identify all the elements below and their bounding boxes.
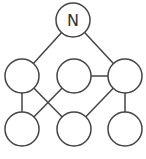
node-bm (57, 112, 91, 146)
node-bl (5, 112, 39, 146)
nodes-layer: N (5, 3, 142, 146)
node-label: N (67, 11, 79, 30)
node-l (5, 59, 39, 93)
node-r (108, 59, 142, 93)
node-circle (5, 59, 39, 93)
node-circle (57, 59, 91, 93)
node-circle (108, 112, 142, 146)
node-circle (5, 112, 39, 146)
node-circle (108, 59, 142, 93)
node-br (108, 112, 142, 146)
graph-diagram: N (0, 0, 146, 159)
node-n: N (56, 3, 90, 37)
node-circle (57, 112, 91, 146)
node-m (57, 59, 91, 93)
